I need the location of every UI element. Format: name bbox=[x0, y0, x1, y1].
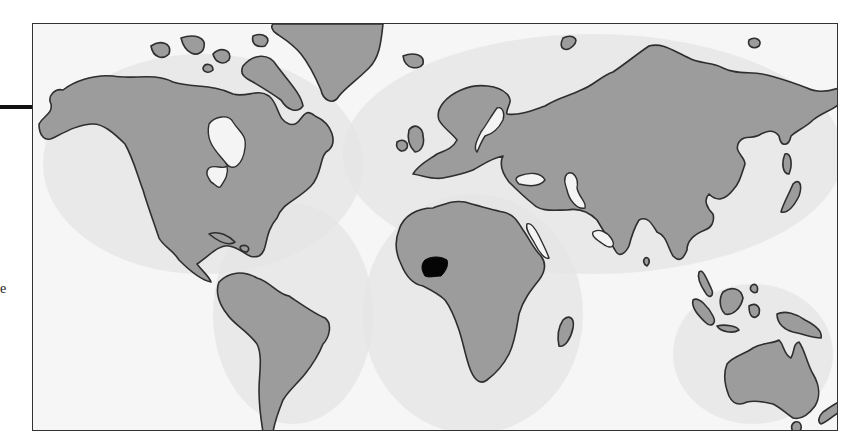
arctic-island-2 bbox=[181, 36, 204, 54]
world-map-figure bbox=[32, 23, 838, 431]
arctic-island-1 bbox=[151, 43, 170, 58]
black-sea bbox=[516, 173, 545, 185]
arctic-island-6 bbox=[749, 38, 760, 47]
caribbean-island bbox=[240, 245, 248, 252]
iceland bbox=[403, 54, 423, 68]
arctic-island-5 bbox=[253, 35, 268, 47]
tasmania bbox=[792, 422, 801, 431]
new-zealand bbox=[819, 402, 838, 424]
sri-lanka bbox=[644, 258, 649, 266]
japan-hokkaido bbox=[783, 154, 791, 174]
ireland bbox=[397, 140, 408, 150]
callout-leader-line bbox=[0, 105, 33, 109]
arctic-island-4 bbox=[203, 64, 213, 72]
malay-peninsula bbox=[698, 271, 712, 296]
cropped-caption-fragment: e bbox=[0, 282, 6, 296]
philippines bbox=[750, 284, 757, 292]
sulawesi bbox=[749, 304, 759, 317]
world-map-svg bbox=[33, 24, 838, 431]
